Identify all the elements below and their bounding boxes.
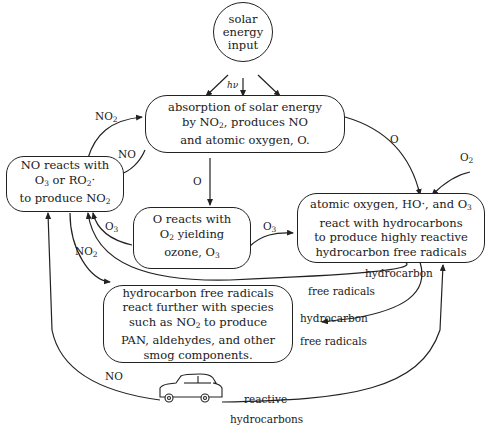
label-hydrocarbon-2: hydrocarbon <box>300 312 368 324</box>
text-span: O <box>263 220 272 232</box>
text-line: to produce NO2 <box>20 191 111 210</box>
text-line: O2 yielding <box>153 227 231 246</box>
label-free-radicals-1: free radicals <box>308 285 375 297</box>
label-no2-top: NO2 <box>95 110 118 124</box>
text-span: such as NO <box>129 315 196 329</box>
label-o3-right: O3 <box>263 220 276 234</box>
text-line: by NO2, produces NO <box>168 115 322 134</box>
label-hv: hν <box>227 80 238 90</box>
text-span: NO <box>75 245 93 257</box>
text-span: to produce <box>200 315 267 329</box>
text-line: energy <box>223 26 263 39</box>
label-o-mid: O <box>193 175 202 187</box>
text-span: · <box>92 173 96 187</box>
text-line: input <box>223 39 263 52</box>
node-hydrocarbon-radicals: hydrocarbon free radicals react further … <box>103 285 293 363</box>
label-reactive: reactive <box>244 393 287 405</box>
text-line: O reacts with <box>153 212 231 227</box>
text-line: react further with species <box>121 300 275 315</box>
text-line: hydrocarbon free radicals <box>310 245 472 260</box>
label-no-mid: NO <box>118 148 136 160</box>
text-span: ozone, O <box>164 245 215 259</box>
node-absorption: absorption of solar energy by NO2, produ… <box>145 95 345 153</box>
text-span: by NO <box>182 115 219 129</box>
text-span: NO <box>95 110 113 122</box>
text-line: O3 or RO2· <box>20 173 111 192</box>
text-line: ozone, O3 <box>153 245 231 264</box>
label-o-right: O <box>390 133 399 145</box>
label-no-bottom: NO <box>105 370 123 382</box>
node-o-reacts: O reacts with O2 yielding ozone, O3 <box>133 207 251 269</box>
automobile-icon <box>160 374 222 402</box>
text-line: to produce highly reactive <box>310 230 472 245</box>
text-span: O <box>460 151 469 163</box>
label-o3-left: O3 <box>105 220 118 234</box>
node-solar-energy-input: solar energy input <box>213 2 273 62</box>
text-line: hydrocarbon free radicals <box>121 286 275 301</box>
text-line: react with hydrocarbons <box>310 216 472 231</box>
label-o2-right: O2 <box>460 151 473 165</box>
subscript: 3 <box>114 225 119 234</box>
node-no-reacts: NO reacts with O3 or RO2· to produce NO2 <box>6 156 124 212</box>
subscript: 2 <box>93 250 98 259</box>
text-span: yielding <box>174 227 224 241</box>
text-line: absorption of solar energy <box>168 100 322 115</box>
text-span: atomic oxygen, HO·, and O <box>310 197 467 211</box>
subscript: 2 <box>113 115 118 124</box>
text-span: O <box>160 227 169 241</box>
text-span: or RO <box>49 173 87 187</box>
text-line: solar <box>223 13 263 26</box>
text-span: O <box>105 220 114 232</box>
subscript: 3 <box>467 203 472 212</box>
subscript: 3 <box>272 225 277 234</box>
text-line: NO reacts with <box>20 158 111 173</box>
text-span: O <box>35 173 44 187</box>
text-span: to produce NO <box>20 191 106 205</box>
text-span: , produces NO <box>224 115 308 129</box>
label-hydrocarbons: hydrocarbons <box>230 413 303 425</box>
subscript: 3 <box>215 251 220 260</box>
label-no2-left: NO2 <box>75 245 98 259</box>
label-free-radicals-2: free radicals <box>300 335 367 347</box>
text-line: such as NO2 to produce <box>121 315 275 334</box>
text-line: atomic oxygen, HO·, and O3 <box>310 197 472 216</box>
label-hydrocarbon-1: hydrocarbon <box>365 267 433 279</box>
node-atomic-oxygen: atomic oxygen, HO·, and O3 react with hy… <box>297 193 485 263</box>
text-line: smog components. <box>121 348 275 363</box>
text-line: PAN, aldehydes, and other <box>121 333 275 348</box>
subscript: 2 <box>106 197 111 206</box>
text-line: and atomic oxygen, O. <box>168 133 322 148</box>
subscript: 2 <box>469 156 474 165</box>
